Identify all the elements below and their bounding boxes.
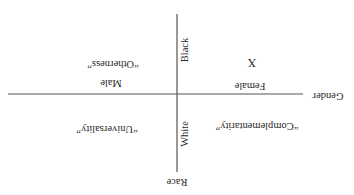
otherness-quadrant-label: “Otherness” xyxy=(87,59,139,70)
female-label: Female xyxy=(234,81,265,92)
gender-race-diagram: Gender Race Male Female Black White “Oth… xyxy=(0,0,354,195)
male-label: Male xyxy=(100,78,122,89)
race-axis-title: Race xyxy=(166,177,187,188)
black-label: Black xyxy=(179,37,190,62)
complementarity-quadrant-label: “Complementarity” xyxy=(215,121,298,132)
x-quadrant-marker: X xyxy=(247,56,256,70)
universality-quadrant-label: “Universality” xyxy=(76,124,138,135)
white-label: White xyxy=(179,121,190,147)
gender-axis-title: Gender xyxy=(312,91,343,102)
